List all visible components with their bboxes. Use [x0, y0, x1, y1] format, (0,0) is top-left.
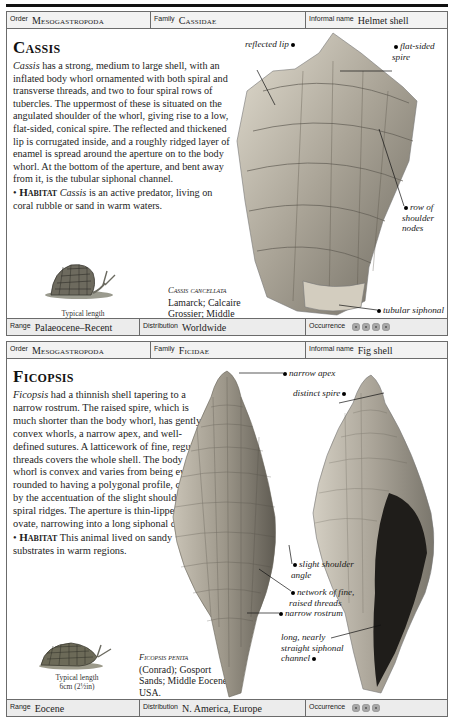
typical-length-label: Typical length	[37, 309, 129, 318]
annotation-text: narrow rostrum	[285, 608, 343, 618]
snail-thumbnail-icon	[35, 635, 119, 671]
annotation-narrow-rostrum: narrow rostrum	[277, 608, 343, 619]
informal-name-cell: Informal name Helmet shell	[306, 12, 447, 28]
range-cell: Range Eocene	[7, 700, 140, 716]
genus-title: Cassis	[13, 38, 60, 58]
range-cell: Range Palaeocene–Recent	[7, 319, 140, 335]
entry-card-ficopsis: Order Mesogastropoda Family Ficidae Info…	[6, 341, 448, 717]
habitat-label: Habitat	[19, 531, 57, 543]
distribution-label: Distribution	[143, 703, 178, 710]
range-label: Range	[10, 322, 31, 329]
page-top-rule	[6, 4, 448, 7]
occurrence-dot-icon	[372, 704, 380, 712]
entry-body: Ficopsis Ficopsis had a thinnish shell t…	[7, 359, 447, 700]
occurrence-cell: Occurrence	[306, 700, 447, 716]
family-cell: Family Ficidae	[151, 342, 306, 358]
occurrence-cell: Occurrence	[306, 319, 447, 335]
annotation-text: reflected lip	[245, 39, 289, 49]
annotation-slight-shoulder-angle: slight shoulder angle	[291, 559, 371, 580]
description-genus-name: Cassis	[13, 60, 40, 71]
informal-name-value: Fig shell	[358, 345, 393, 356]
annotation-text: network of fine, raised threads	[289, 587, 354, 608]
description-text: has a strong, medium to large shell, wit…	[13, 60, 230, 184]
annotation-text: slight shoulder angle	[291, 559, 354, 580]
distribution-cell: Distribution N. America, Europe	[140, 700, 306, 716]
range-label: Range	[10, 703, 31, 710]
habitat-line: • Habitat This animal lived on sandy sub…	[13, 532, 172, 556]
annotation-text: flat-sided spire	[392, 41, 435, 62]
occurrence-rating	[352, 323, 390, 331]
occurrence-label: Occurrence	[309, 703, 345, 710]
distribution-label: Distribution	[143, 322, 178, 329]
occurrence-label: Occurrence	[309, 322, 345, 329]
family-cell: Family Cassidae	[151, 12, 306, 28]
annotation-text: distinct spire	[293, 388, 340, 398]
family-value: Ficidae	[179, 345, 210, 356]
family-value: Cassidae	[179, 15, 217, 26]
genus-description: Cassis has a strong, medium to large she…	[13, 60, 235, 212]
informal-name-value: Helmet shell	[358, 15, 409, 26]
informal-name-cell: Informal name Fig shell	[306, 342, 447, 358]
annotation-row-of-shoulder-nodes: row of shoulder nodes	[402, 202, 447, 234]
habitat-label: Habitat	[19, 186, 57, 198]
cassis-shell-image-icon	[233, 31, 447, 319]
occurrence-dot-icon	[382, 323, 390, 331]
annotation-network-of-fine-raised-threads: network of fine, raised threads	[289, 587, 369, 608]
annotation-reflected-lip: reflected lip	[245, 39, 297, 50]
entry-footer: Range Eocene Distribution N. America, Eu…	[7, 699, 447, 716]
family-label: Family	[154, 345, 175, 352]
order-value: Mesogastropoda	[32, 345, 104, 356]
genus-title: Ficopsis	[13, 367, 74, 387]
annotation-long-nearly-straight-siphonal-channel: long, nearly straight siphonal channel	[281, 632, 349, 664]
description-genus-name: Ficopsis	[13, 389, 48, 400]
distribution-value: N. America, Europe	[182, 703, 262, 714]
typical-length-caption: Typical length 6cm (2½in)	[31, 673, 123, 691]
entry-footer: Range Palaeocene–Recent Distribution Wor…	[7, 318, 447, 335]
order-label: Order	[10, 15, 28, 22]
ficopsis-shell-dorsal-image-icon	[167, 367, 287, 699]
entry-card-cassis: Order Mesogastropoda Family Cassidae Inf…	[6, 11, 448, 336]
annotation-distinct-spire: distinct spire	[293, 388, 348, 399]
family-label: Family	[154, 15, 175, 22]
distribution-cell: Distribution Worldwide	[140, 319, 306, 335]
order-cell: Order Mesogastropoda	[7, 12, 151, 28]
occurrence-dot-icon	[372, 323, 380, 331]
order-cell: Order Mesogastropoda	[7, 342, 151, 358]
annotation-text: narrow apex	[289, 368, 335, 378]
occurrence-dot-icon	[362, 323, 370, 331]
order-label: Order	[10, 345, 28, 352]
occurrence-rating	[352, 704, 380, 712]
range-value: Eocene	[35, 703, 64, 714]
annotation-flat-sided-spire: flat-sided spire	[392, 41, 442, 62]
distribution-value: Worldwide	[182, 322, 226, 333]
entry-header: Order Mesogastropoda Family Cassidae Inf…	[7, 12, 447, 29]
annotation-narrow-apex: narrow apex	[281, 368, 335, 379]
informal-name-label: Informal name	[309, 15, 354, 22]
order-value: Mesogastropoda	[32, 15, 104, 26]
occurrence-dot-icon	[352, 323, 360, 331]
occurrence-dot-icon	[352, 704, 360, 712]
typical-length-label: Typical length	[31, 673, 123, 682]
entry-header: Order Mesogastropoda Family Ficidae Info…	[7, 342, 447, 359]
informal-name-label: Informal name	[309, 345, 354, 352]
habitat-line: • Habitat Cassis is an active predator, …	[13, 187, 212, 211]
occurrence-dot-icon	[362, 704, 370, 712]
habitat-genus-name: Cassis	[60, 187, 87, 198]
typical-length-value: 6cm (2½in)	[31, 682, 123, 691]
range-value: Palaeocene–Recent	[35, 322, 113, 333]
entry-body: Cassis Cassis has a strong, medium to la…	[7, 29, 447, 319]
snail-thumbnail-icon	[41, 259, 125, 301]
